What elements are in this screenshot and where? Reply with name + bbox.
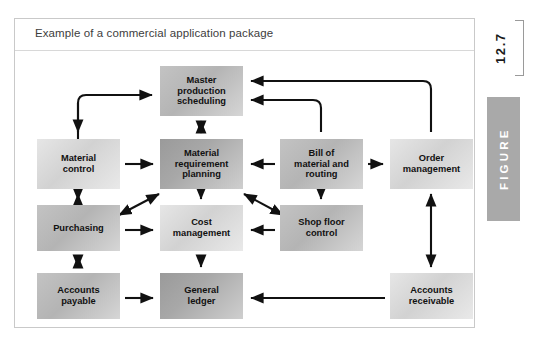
node-master-production-scheduling[interactable]: Masterproductionscheduling [160,66,243,116]
flowchart-diagram: Masterproductionscheduling Materialcontr… [15,51,476,328]
figure-number-bracket [515,20,524,76]
edge-bom-to-mps [251,100,321,132]
edge-mrp-shop-floor-control [244,194,283,215]
node-bill-of-material-and-routing[interactable]: Bill ofmaterial androuting [280,139,363,189]
node-cost-management[interactable]: Costmanagement [160,205,243,251]
node-accounts-receivable[interactable]: Accountsreceivable [390,273,473,319]
node-purchasing[interactable]: Purchasing [37,205,120,251]
node-shop-floor-control[interactable]: Shop floorcontrol [280,205,363,251]
figure-caption: Example of a commercial application pack… [35,27,273,39]
figure-frame: Example of a commercial application pack… [14,18,475,328]
node-accounts-payable[interactable]: Accountspayable [37,273,120,319]
figure-label-text: FIGURE [487,97,520,221]
node-material-requirement-planning[interactable]: Materialrequirementplanning [160,139,243,189]
figure-label-bar: FIGURE [487,97,520,221]
edge-mrp-purchasing [119,194,159,215]
node-material-control[interactable]: Materialcontrol [37,139,120,189]
figure-number: 12.7 [489,22,511,74]
node-general-ledger[interactable]: Generalledger [160,273,243,319]
edge-order-management-to-mps [251,81,431,132]
node-order-management[interactable]: Ordermanagement [390,139,473,189]
